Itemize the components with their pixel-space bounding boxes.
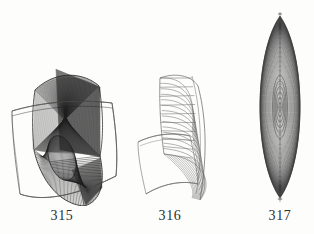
figure-316-canvas	[134, 62, 229, 206]
figure-316	[134, 62, 229, 206]
figure-317-caption: 317	[250, 208, 310, 224]
figure-316-caption: 316	[140, 208, 200, 224]
figure-315	[0, 38, 130, 206]
figure-317	[243, 8, 314, 206]
figure-315-caption: 315	[32, 208, 92, 224]
figure-315-canvas	[0, 38, 130, 206]
figure-plate: 315 316 317	[0, 0, 314, 234]
figure-317-canvas	[243, 8, 314, 206]
